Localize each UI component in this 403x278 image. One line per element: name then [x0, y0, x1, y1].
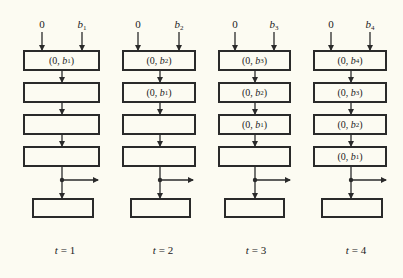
time-var: t: [346, 244, 349, 256]
input-b-label: b3: [270, 18, 279, 34]
reg-first: 0: [341, 87, 346, 98]
register-1: (0, b4): [313, 50, 387, 71]
reg-first: 0: [150, 87, 155, 98]
input-b-sub: 4: [371, 24, 375, 32]
reg-first: 0: [245, 55, 250, 66]
time-eq: =: [352, 244, 358, 256]
register-3: (0, b2): [313, 114, 387, 135]
reg-first: 0: [150, 55, 155, 66]
register-1: (0, b1): [23, 50, 100, 71]
register-1: (0, b2): [122, 50, 196, 71]
input-zero-label: 0: [39, 18, 45, 30]
reg-sub: 3: [356, 89, 360, 97]
input-b-label: b4: [366, 18, 375, 34]
output-register: [32, 198, 94, 218]
reg-first: 0: [52, 55, 57, 66]
time-eq: =: [61, 244, 67, 256]
time-eq: =: [159, 244, 165, 256]
input-b-sub: 1: [83, 24, 87, 32]
time-eq: =: [252, 244, 258, 256]
input-zero-label: 0: [328, 18, 334, 30]
time-var: t: [153, 244, 156, 256]
time-var: t: [246, 244, 249, 256]
input-zero-label: 0: [232, 18, 238, 30]
time-value: 4: [361, 244, 367, 256]
junction-dot: [60, 178, 64, 182]
reg-sub: 2: [260, 89, 264, 97]
time-value: 2: [168, 244, 174, 256]
reg-first: 0: [245, 119, 250, 130]
input-zero-label: 0: [135, 18, 141, 30]
register-3: [122, 114, 196, 135]
register-4: [23, 146, 100, 167]
time-value: 3: [261, 244, 267, 256]
time-value: 1: [70, 244, 76, 256]
input-b-label: b2: [175, 18, 184, 34]
register-2: (0, b2): [218, 82, 291, 103]
diagram-canvas: 0 b1 (0, b1) t = 1 0 b2 (0, b2) (0, b1) …: [0, 0, 403, 278]
register-4: (0, b1): [313, 146, 387, 167]
reg-sub: 2: [165, 57, 169, 65]
junction-dot: [349, 178, 353, 182]
time-var: t: [55, 244, 58, 256]
connector-lines: [0, 0, 403, 278]
reg-sub: 2: [356, 121, 360, 129]
input-b-label: b1: [78, 18, 87, 34]
input-b-sub: 2: [180, 24, 184, 32]
reg-sub: 1: [67, 57, 71, 65]
reg-sub: 4: [356, 57, 360, 65]
register-4: [122, 146, 196, 167]
input-b-sub: 3: [275, 24, 279, 32]
reg-first: 0: [245, 87, 250, 98]
time-label: t = 2: [153, 244, 173, 256]
register-3: (0, b1): [218, 114, 291, 135]
register-3: [23, 114, 100, 135]
register-2: (0, b3): [313, 82, 387, 103]
reg-sub: 1: [165, 89, 169, 97]
output-register: [321, 198, 383, 218]
reg-first: 0: [341, 55, 346, 66]
junction-dot: [158, 178, 162, 182]
time-label: t = 4: [346, 244, 366, 256]
reg-sub: 1: [260, 121, 264, 129]
output-register: [130, 198, 191, 218]
reg-sub: 1: [356, 153, 360, 161]
register-4: [218, 146, 291, 167]
reg-first: 0: [341, 119, 346, 130]
reg-first: 0: [341, 151, 346, 162]
register-2: [23, 82, 100, 103]
time-label: t = 1: [55, 244, 75, 256]
output-register: [224, 198, 285, 218]
junction-dot: [253, 178, 257, 182]
reg-sub: 3: [260, 57, 264, 65]
register-1: (0, b3): [218, 50, 291, 71]
register-2: (0, b1): [122, 82, 196, 103]
time-label: t = 3: [246, 244, 266, 256]
